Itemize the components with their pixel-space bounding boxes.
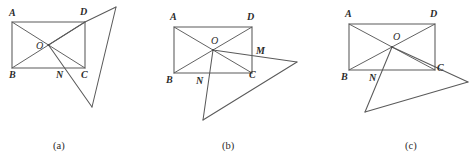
panel-b-geometry [174,27,297,120]
panel-c-label-A: A [345,9,352,19]
panel-b-label-N: N [196,76,203,86]
panel-c-label-D: D [430,9,437,19]
panel-c-fold-edge-p-q [365,82,468,112]
panel-b-fold-edge-q-o [203,50,213,120]
panel-c-label-B: B [341,72,348,82]
panel-a-fold-edge-d-p [85,7,116,22]
panel-a-label-C: C [81,70,88,80]
panel-a-point-o [47,44,49,46]
panel-c-fold-edge-o-p [392,47,468,82]
caption-a: (a) [53,141,65,152]
panel-c-point-o [391,46,393,48]
panel-b-label-M: M [256,46,265,56]
panel-a-fold-edge-d-o [49,22,86,45]
panel-b-fold-edge-o-p [213,50,297,62]
panel-b-label-A: A [170,12,177,22]
panel-c-label-N: N [369,73,376,83]
caption-c: (c) [405,141,417,152]
panel-a-fold-edge-p-q [92,7,116,107]
panel-c-label-O: O [393,32,400,42]
panel-b-label-C: C [249,70,256,80]
panel-b-label-D: D [247,12,254,22]
panel-a-label-B: B [9,70,16,80]
panel-a-label-O: O [36,41,43,51]
panel-a-label-N: N [56,70,63,80]
panel-a-label-D: D [80,7,87,17]
panel-c-label-C: C [437,63,444,73]
panel-b-point-o [212,49,214,51]
panel-c-geometry [349,24,468,112]
caption-b: (b) [222,141,234,152]
panel-a-geometry [12,7,116,107]
figure-canvas: A D B C O N A D B C O M N A D B C O N (a… [0,0,474,166]
panel-b-label-B: B [166,75,173,85]
panel-b-label-O: O [211,36,218,46]
geometry-drawing [0,0,474,166]
panel-a-label-A: A [9,8,16,18]
